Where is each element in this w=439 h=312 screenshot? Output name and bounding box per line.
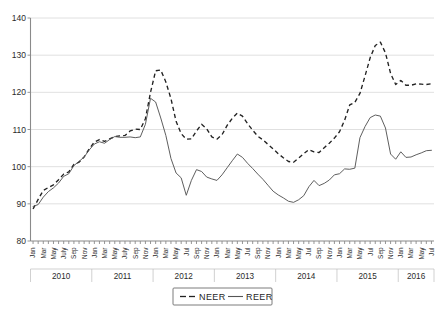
x-axis-month-label: Mar xyxy=(40,247,47,259)
x-axis-year-label: 2011 xyxy=(114,272,132,281)
y-axis-tick-label: 120 xyxy=(12,87,26,97)
y-axis-tick-label: 80 xyxy=(17,236,27,246)
x-axis-month-label: May xyxy=(295,247,303,260)
x-axis-month-label: May xyxy=(418,247,426,260)
x-axis-month-label: Sep xyxy=(70,247,78,259)
y-axis-labels: 8090100110120130140 xyxy=(12,13,26,246)
x-axis-year-label: 2013 xyxy=(236,272,255,281)
x-axis-month-label: Jul xyxy=(428,248,435,256)
x-axis-month-label: July xyxy=(121,247,129,259)
x-axis-month-label: Sep xyxy=(377,247,385,259)
x-axis-year-label: 2012 xyxy=(175,272,194,281)
x-axis-month-label: Nov xyxy=(81,247,88,259)
y-axis-tick-label: 140 xyxy=(12,13,26,23)
x-axis-month-label: May xyxy=(111,247,119,260)
x-axis-month-label: May xyxy=(50,247,58,260)
x-axis-month-label: Nov xyxy=(142,247,149,259)
x-axis-month-label: Jul xyxy=(183,248,190,256)
legend-label-neer: NEER xyxy=(199,292,226,302)
x-axis-month-label: Sep xyxy=(193,247,201,259)
series-line-reer xyxy=(33,98,431,206)
x-axis-month-label: Jan xyxy=(397,247,404,258)
chart-legend: NEER REER xyxy=(173,288,273,305)
gridlines xyxy=(31,18,435,204)
x-axis-year-labels: 2010201120122013201420152016 xyxy=(52,272,426,281)
y-axis-tick-label: 130 xyxy=(12,50,26,60)
x-axis-month-label: Mar xyxy=(407,247,414,259)
y-axis-tick-label: 90 xyxy=(17,199,27,209)
x-axis-month-label: Mar xyxy=(285,247,292,259)
x-axis-month-label: Mar xyxy=(346,247,353,259)
x-axis-month-label: Sep xyxy=(315,247,323,259)
x-axis-month-label: Jan xyxy=(29,247,36,258)
x-axis-month-label: Jan xyxy=(152,247,159,258)
x-axis-year-label: 2014 xyxy=(297,272,316,281)
x-axis-year-label: 2016 xyxy=(407,272,426,281)
x-axis-month-label: Mar xyxy=(162,247,169,259)
x-axis-month-label: May xyxy=(172,247,180,260)
x-axis-month-label: Mar xyxy=(101,247,108,259)
y-axis-tick-label: 100 xyxy=(12,162,26,172)
x-axis-month-label: Nov xyxy=(387,247,394,259)
x-axis-month-label: Jul xyxy=(305,248,312,256)
x-axis-month-label: May xyxy=(234,247,242,260)
x-axis-month-label: Sep xyxy=(254,247,262,259)
x-axis-year-label: 2015 xyxy=(358,272,377,281)
x-axis-month-label: Nov xyxy=(264,247,271,259)
x-axis-month-labels: JanMarMayJulySepNovJanMarMayJulySepNovJa… xyxy=(29,247,434,260)
x-axis-month-label: May xyxy=(356,247,364,260)
series-line-neer xyxy=(33,42,431,209)
x-axis-month-label: Jan xyxy=(275,247,282,258)
x-axis-month-label: Nov xyxy=(326,247,333,259)
x-axis-month-label: Jul xyxy=(244,248,251,256)
x-axis-month-label: Jul xyxy=(367,248,374,256)
x-axis-month-label: July xyxy=(60,247,68,259)
legend-label-reer: REER xyxy=(246,292,273,302)
x-axis-month-label: Jan xyxy=(213,247,220,258)
x-axis-month-label: Mar xyxy=(224,247,231,259)
x-axis-month-label: Jan xyxy=(336,247,343,258)
x-axis-year-label: 2010 xyxy=(52,272,71,281)
x-axis-month-label: Jan xyxy=(91,247,98,258)
chart-container: 8090100110120130140 JanMarMayJulySepNovJ… xyxy=(0,0,439,312)
x-axis-month-label: Nov xyxy=(203,247,210,259)
x-axis-month-label: Sep xyxy=(132,247,140,259)
y-axis-tick-label: 110 xyxy=(12,125,26,135)
line-chart: 8090100110120130140 JanMarMayJulySepNovJ… xyxy=(0,0,439,312)
